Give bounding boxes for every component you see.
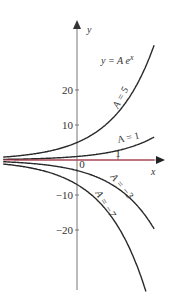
x-axis-arrow	[156, 156, 165, 164]
x-tick-label: 1	[115, 147, 121, 159]
y-axis-arrow	[73, 20, 81, 29]
y-tick-label: 10	[62, 119, 74, 131]
y-tick-label: 20	[62, 84, 74, 96]
label-a-7: A = −7	[93, 187, 119, 219]
formula-label: y = A ex	[100, 53, 134, 66]
exponential-family-chart: y x 2010−10−2001 y = A ex A = 5 A = 1 A …	[0, 0, 172, 296]
y-tick-label: −10	[56, 189, 74, 201]
label-a1: A = 1	[116, 130, 140, 145]
y-tick-label: −20	[56, 224, 74, 236]
formula-text: y = A e	[100, 55, 130, 66]
label-a5: A = 5	[110, 85, 131, 111]
x-axis-label: x	[150, 166, 156, 177]
y-axis-label: y	[86, 24, 92, 35]
label-a-3: A = −3	[108, 170, 136, 200]
formula-exponent: x	[129, 53, 134, 62]
